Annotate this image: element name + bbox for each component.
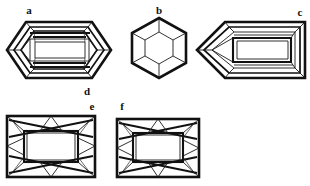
figure-c-group: c	[197, 6, 305, 78]
figure-e-label: e	[90, 100, 95, 112]
figure-e-outer-fill	[7, 116, 95, 177]
figure-a-label: a	[26, 4, 32, 16]
figure-c-label: c	[298, 6, 303, 18]
figure-c-outer-fill	[197, 22, 305, 78]
figure-f-group: f	[117, 100, 199, 177]
figure-plate-canvas: a b	[0, 0, 310, 186]
figure-f-label: f	[120, 100, 124, 112]
figure-b-group: b	[132, 4, 186, 78]
gem-cut-figure-plate: a b	[0, 0, 310, 186]
figure-b-label: b	[156, 4, 162, 16]
figure-d-label: d	[84, 85, 90, 97]
figure-f-outer-fill	[117, 119, 199, 177]
figure-a-group: a	[7, 4, 111, 78]
figure-e-group: e	[7, 100, 95, 177]
